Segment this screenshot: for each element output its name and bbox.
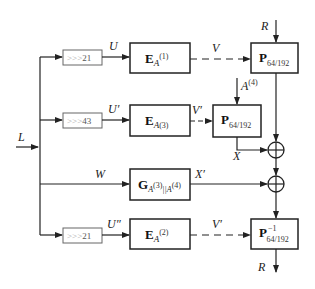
shift-box-row1: >>>21 (63, 50, 102, 65)
xor-2 (268, 176, 284, 192)
svg-text:>>>43: >>>43 (67, 116, 92, 126)
block-P-mid: P64/192 (213, 105, 261, 137)
signal-X-prime: X′ (194, 167, 205, 181)
block-E-A1: EA(1) (130, 43, 190, 73)
input-A4: A(4) (240, 78, 258, 93)
block-G-A3-A4: GA(3)||A(4) (130, 169, 190, 200)
input-R: R (260, 19, 269, 33)
input-L: L (16, 130, 38, 147)
svg-text:L: L (17, 130, 25, 144)
diagram-canvas: L >>>21 >>>43 >>>21 U U′ W U″ EA(1) EA(3… (0, 0, 315, 289)
shift-box-row4: >>>21 (63, 228, 102, 243)
block-E-A2: EA(2) (130, 219, 190, 249)
signal-V: V (212, 41, 221, 55)
block-P-inverse: P−164/192 (251, 219, 298, 249)
signal-V-prime-bottom: V′ (212, 217, 222, 231)
signal-V-prime: V′ (192, 103, 202, 117)
block-P-top: P64/192 (251, 43, 298, 73)
signal-U: U (109, 39, 119, 53)
shift-box-row2: >>>43 (63, 113, 102, 128)
xor-1 (268, 142, 284, 158)
signal-U-prime: U′ (108, 102, 120, 116)
svg-text:>>>21: >>>21 (67, 53, 91, 63)
signal-X: X (232, 149, 241, 163)
signal-W: W (95, 167, 106, 181)
output-R: R (257, 260, 266, 274)
signal-U-double-prime: U″ (107, 217, 122, 231)
svg-text:>>>21: >>>21 (67, 231, 91, 241)
block-E-A3: EA(3) (130, 105, 190, 136)
